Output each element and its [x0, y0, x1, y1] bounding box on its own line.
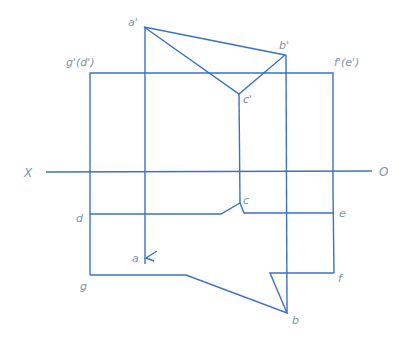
front-view-triangle	[144, 27, 285, 94]
outline-g-b-f	[90, 273, 334, 313]
top-view-right-edge	[333, 190, 334, 273]
xo-axis-line	[46, 171, 372, 172]
label-d: d	[76, 212, 84, 225]
label-a: a	[132, 252, 139, 265]
label-f-prime-e-prime: f'(e')	[334, 56, 359, 69]
label-e: e	[339, 207, 346, 220]
axis-label-x: X	[23, 166, 33, 180]
axis-label-o: O	[379, 165, 388, 179]
label-g-prime-d-prime: g'(d')	[66, 56, 95, 69]
line-d-c-e	[90, 203, 334, 214]
projector-c	[239, 94, 240, 203]
label-a-prime: a'	[128, 16, 138, 29]
label-b-prime: b'	[279, 39, 289, 52]
label-f: f	[338, 272, 344, 285]
label-c-prime: c'	[243, 93, 252, 106]
label-b: b	[292, 314, 299, 327]
label-c: c	[243, 194, 249, 207]
label-g: g	[80, 280, 87, 293]
a-check-mark	[146, 251, 157, 261]
projection-drawing: a' b' c' g'(d') f'(e') X O d c e a g f b	[0, 0, 409, 339]
projector-b	[286, 55, 287, 313]
